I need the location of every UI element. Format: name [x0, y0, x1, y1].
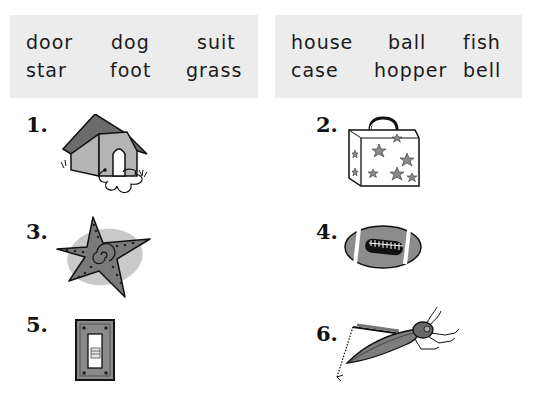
- doghouse-icon: [55, 114, 155, 204]
- grasshopper-icon: [335, 305, 465, 385]
- word-bank-right: house ball fish case hopper bell: [275, 15, 522, 98]
- item-number: 5.: [26, 312, 48, 337]
- item-number: 2.: [316, 112, 338, 137]
- word: fish: [463, 31, 501, 53]
- word: ball: [388, 31, 426, 53]
- word: hopper: [374, 59, 447, 81]
- word: suit: [197, 31, 236, 53]
- light-switch-icon: [74, 318, 116, 382]
- word: grass: [186, 59, 242, 81]
- word: door: [26, 31, 73, 53]
- suitcase-icon: [345, 116, 425, 188]
- word-bank-left: door dog suit star foot grass: [10, 15, 258, 98]
- word: bell: [463, 59, 501, 81]
- item-number: 1.: [26, 112, 48, 137]
- item-number: 3.: [26, 219, 48, 244]
- word: star: [26, 59, 67, 81]
- word: dog: [111, 31, 150, 53]
- word: foot: [110, 59, 151, 81]
- football-icon: [343, 224, 423, 270]
- item-number: 4.: [316, 219, 338, 244]
- word: house: [291, 31, 353, 53]
- word: case: [291, 59, 339, 81]
- starfish-icon: [55, 215, 155, 300]
